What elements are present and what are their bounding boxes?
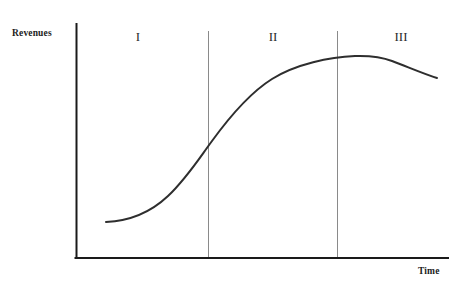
stage-label-iii: III bbox=[395, 30, 408, 43]
product-life-cycle-chart: Revenues Time I II III bbox=[0, 0, 466, 285]
y-axis-label: Revenues bbox=[12, 29, 52, 39]
stage-label-i: I bbox=[136, 30, 140, 43]
x-axis-label: Time bbox=[418, 267, 440, 277]
stage-label-ii: II bbox=[269, 30, 278, 43]
revenue-curve bbox=[106, 56, 437, 222]
stage-divider-group bbox=[209, 31, 338, 257]
